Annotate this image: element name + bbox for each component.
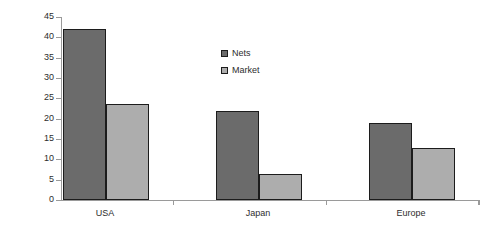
bar-europe-nets (369, 123, 412, 200)
legend-swatch-nets (221, 50, 228, 57)
y-axis-tick-label: 15 (6, 134, 54, 143)
x-axis-tick (479, 200, 480, 205)
y-axis-tick (56, 37, 61, 38)
bar-europe-market (412, 148, 455, 200)
y-axis-tick (56, 200, 61, 201)
y-axis-tick-label: 35 (6, 53, 54, 62)
x-axis-line (61, 200, 479, 201)
y-axis-tick (56, 17, 61, 18)
plot-area (62, 17, 478, 200)
y-axis-tick-label: 30 (6, 73, 54, 82)
y-axis-tick (56, 78, 61, 79)
y-axis-tick (56, 180, 61, 181)
y-axis-tick-label: 40 (6, 32, 54, 41)
y-axis-tick-label: 5 (6, 175, 54, 184)
y-axis-tick-label: 20 (6, 114, 54, 123)
y-axis-tick (56, 119, 61, 120)
x-axis-tick (326, 200, 327, 205)
bar-usa-nets (63, 29, 106, 200)
bar-japan-nets (216, 111, 259, 200)
legend-item-nets: Nets (221, 46, 260, 60)
bar-chart: 051015202530354045 Nets Market USAJapanE… (0, 0, 493, 233)
y-axis-tick (56, 58, 61, 59)
legend-swatch-market (221, 67, 228, 74)
y-axis-tick-label: 25 (6, 93, 54, 102)
bar-usa-market (106, 104, 149, 200)
x-axis-label-japan: Japan (195, 208, 321, 219)
y-axis-labels: 051015202530354045 (0, 0, 54, 233)
bar-japan-market (259, 174, 302, 200)
x-axis-tick (173, 200, 174, 205)
y-axis-tick (56, 159, 61, 160)
x-axis-label-usa: USA (42, 208, 168, 219)
y-axis-tick (56, 139, 61, 140)
legend-label-market: Market (232, 66, 260, 75)
y-axis-tick-label: 45 (6, 12, 54, 21)
chart-legend: Nets Market (221, 46, 260, 80)
y-axis-tick (56, 98, 61, 99)
y-axis-tick-label: 0 (6, 195, 54, 204)
legend-label-nets: Nets (232, 49, 251, 58)
y-axis-tick-label: 10 (6, 154, 54, 163)
x-axis-end-tick (478, 200, 479, 205)
legend-item-market: Market (221, 63, 260, 77)
x-axis-label-europe: Europe (348, 208, 474, 219)
